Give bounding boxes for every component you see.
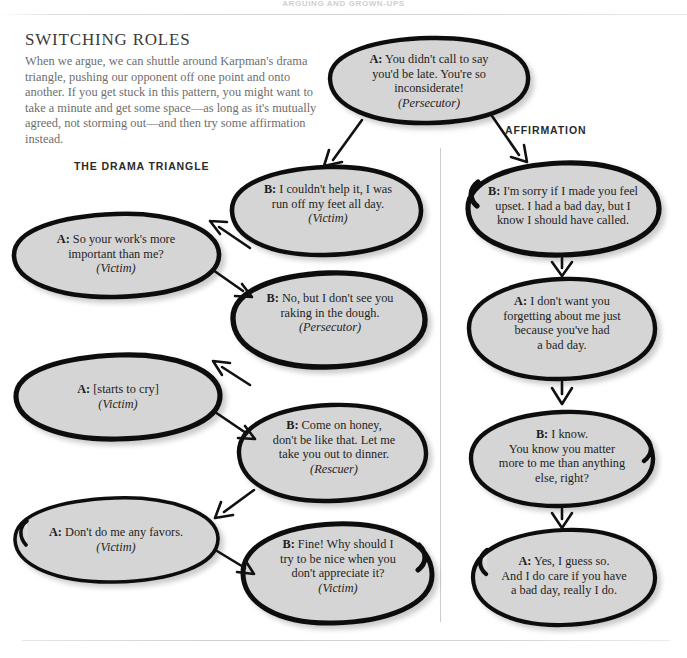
- bubble-shape-middle-1[interactable]: [233, 273, 425, 367]
- bubble-shape-right-2[interactable]: [471, 412, 653, 506]
- bubble-shape-right-3[interactable]: [473, 530, 655, 625]
- bubble-shape-middle-3[interactable]: [243, 524, 432, 623]
- footer-rule: [22, 640, 670, 641]
- bubble-shape-left-2[interactable]: [15, 498, 218, 582]
- bubble-shape-right-1[interactable]: [469, 279, 655, 379]
- page-canvas: ARGUING AND GROWN-UPS SWITCHING ROLES Wh…: [0, 0, 687, 658]
- bubble-shape-middle-0[interactable]: [232, 167, 421, 255]
- bubble-shape-left-0[interactable]: [14, 214, 219, 297]
- bubble-shape-left-1[interactable]: [16, 355, 220, 439]
- bubble-shape-right-0[interactable]: [468, 163, 659, 255]
- bubble-shape-middle-2[interactable]: [239, 405, 426, 501]
- bubble-shapes-layer: [0, 0, 687, 658]
- bubble-shape-start[interactable]: [330, 38, 528, 123]
